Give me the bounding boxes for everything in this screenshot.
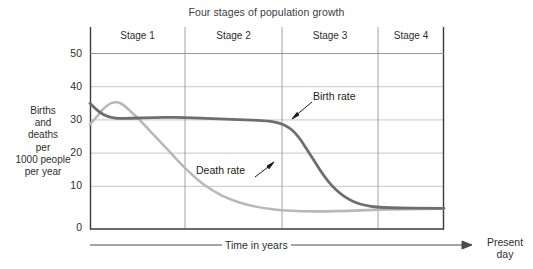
plot-canvas	[0, 0, 533, 269]
series-line-birth-rate	[90, 103, 444, 208]
chart-figure: Four stages of population growth Stage 1…	[0, 0, 533, 269]
annotation-arrows	[255, 102, 312, 177]
death-rate-arrow-head	[267, 162, 274, 169]
present-day-line-1: Present	[478, 236, 532, 248]
axis-lines	[90, 27, 444, 230]
present-day-line-2: day	[478, 248, 532, 260]
birth-rate-arrow-head	[292, 113, 299, 120]
series-annotation-death-rate: Death rate	[196, 164, 245, 176]
series-annotation-birth-rate: Birth rate	[313, 90, 356, 102]
present-day-label: Present day	[478, 236, 532, 260]
x-axis-label: Time in years	[222, 239, 291, 251]
